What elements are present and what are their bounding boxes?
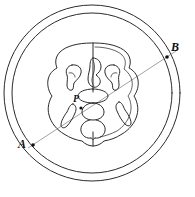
inner-circle [12,13,172,173]
lower-left-nucleus [61,104,76,128]
outer-circle [4,5,180,181]
dorsal-median-nucleus [88,58,101,87]
lower-right-nucleus [116,102,131,126]
point-marker-A [31,143,35,147]
point-label-a: A [18,138,26,150]
point-label-p: P [73,94,79,104]
point-label-b: B [171,41,179,53]
detail-stroke-left [69,73,75,77]
upper-left-nucleus [66,65,81,90]
figure-container: A B P [0,0,195,197]
point-marker-P [79,106,82,109]
ventral-lobe-left [81,120,91,138]
point-marker-B [165,55,169,59]
upper-right-nucleus [105,65,120,90]
detail-stroke-right [111,73,117,77]
ventral-lobe-right [95,120,105,138]
diagram-svg [0,0,195,197]
